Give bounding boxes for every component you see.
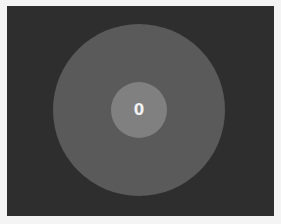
game-stage: 0 [7,6,274,216]
inner-target-circle[interactable]: 0 [111,82,167,138]
score-counter: 0 [134,103,144,118]
outer-target-circle[interactable]: 0 [53,24,225,196]
